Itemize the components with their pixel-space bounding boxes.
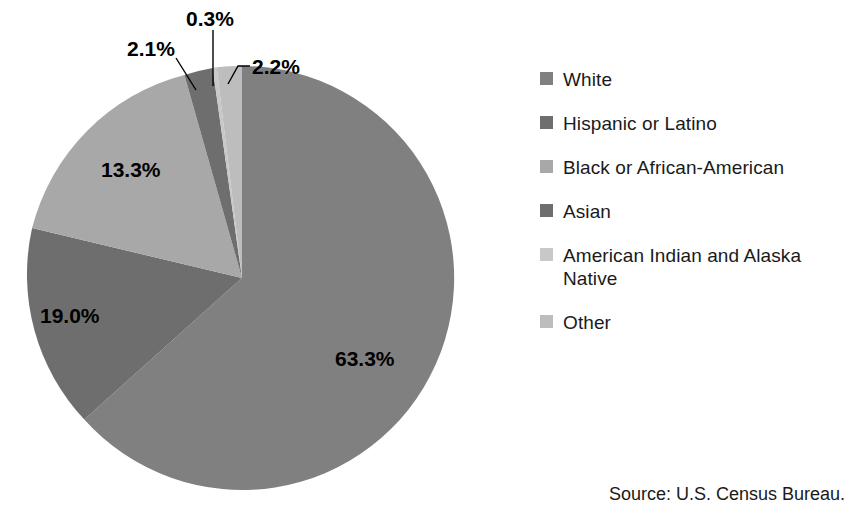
legend-swatch-icon: [540, 72, 553, 85]
pie-label-other: 2.2%: [252, 55, 300, 78]
legend-swatch-icon: [540, 116, 553, 129]
pie-label-black: 13.3%: [101, 158, 161, 181]
pie-chart-plot: 63.3% 19.0% 13.3% 2.1% 0.3% 2.2%: [0, 0, 500, 511]
legend-item-label: Hispanic or Latino: [563, 112, 717, 135]
pie-label-hispanic: 19.0%: [40, 304, 100, 327]
legend-item-asian[interactable]: Asian: [540, 200, 865, 223]
legend-swatch-icon: [540, 315, 553, 328]
legend-item-american-indian-and-alaska-native[interactable]: American Indian and Alaska Native: [540, 244, 865, 290]
legend-swatch-icon: [540, 160, 553, 173]
pie-label-asian: 2.1%: [127, 37, 175, 60]
chart-legend: White Hispanic or Latino Black or Africa…: [540, 68, 865, 355]
legend-item-label: White: [563, 68, 612, 91]
legend-item-other[interactable]: Other: [540, 311, 865, 334]
pie-chart-figure: 63.3% 19.0% 13.3% 2.1% 0.3% 2.2% White H…: [0, 0, 865, 511]
legend-item-label: Asian: [563, 200, 611, 223]
legend-item-label: Black or African-American: [563, 156, 784, 179]
legend-item-label: Other: [563, 311, 611, 334]
legend-swatch-icon: [540, 204, 553, 217]
legend-item-black-or-african-american[interactable]: Black or African-American: [540, 156, 865, 179]
pie-label-white: 63.3%: [335, 347, 395, 370]
legend-item-hispanic-or-latino[interactable]: Hispanic or Latino: [540, 112, 865, 135]
legend-swatch-icon: [540, 248, 553, 261]
pie-label-american-indian: 0.3%: [186, 7, 234, 30]
source-note: Source: U.S. Census Bureau.: [609, 484, 845, 505]
legend-item-label: American Indian and Alaska Native: [563, 244, 801, 290]
legend-item-white[interactable]: White: [540, 68, 865, 91]
